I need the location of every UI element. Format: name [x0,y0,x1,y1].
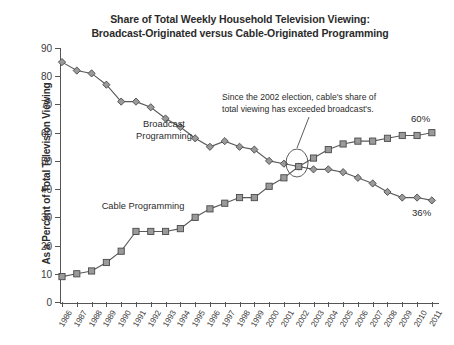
x-axis-tick [417,302,418,307]
data-point-marker [399,132,405,138]
chart-container: Share of Total Weekly Household Televisi… [0,0,454,345]
cable-series-label: Cable Programming [88,200,198,212]
broadcast-series-label-line-2: Programming [136,131,192,141]
data-point-marker [413,194,420,201]
x-axis-tick [432,302,433,307]
data-point-marker [369,180,376,187]
data-point-marker [236,194,242,200]
y-axis-tick [55,104,60,105]
data-point-marker [118,248,124,254]
y-axis-tick-label: 30 [41,212,52,223]
x-axis-tick-label: 2009 [398,309,415,329]
x-axis-tick-label: 1986 [57,309,74,329]
broadcast-end-value-label: 36% [412,207,431,218]
x-axis-tick [402,302,403,307]
x-axis-tick-label: 1987 [72,309,89,329]
y-axis-tick-label: 10 [41,268,52,279]
data-point-marker [339,169,346,176]
x-axis-tick-label: 1994 [176,309,193,329]
y-axis-tick-label: 90 [41,43,52,54]
y-axis-tick-label: 70 [41,99,52,110]
x-axis-tick [195,302,196,307]
series-line-diamond [62,62,432,200]
x-axis-tick-label: 1999 [250,309,267,329]
chart-title: Share of Total Weekly Household Televisi… [40,12,440,40]
x-axis-tick [284,302,285,307]
x-axis-tick-label: 1992 [146,309,163,329]
data-point-marker [192,214,198,220]
x-axis-tick [225,302,226,307]
data-point-marker [162,228,168,234]
chart-title-line-2: Broadcast-Originated versus Cable-Origin… [40,26,440,40]
x-axis-tick-label: 1997 [220,309,237,329]
data-point-marker [251,194,257,200]
data-point-marker [354,174,361,181]
data-point-marker [340,141,346,147]
x-axis-tick [136,302,137,307]
data-point-marker [310,166,317,173]
y-axis-tick [55,302,60,303]
crossover-annotation-line-1: Since the 2002 election, cable's share o… [222,92,408,104]
cable-end-value-label: 60% [411,113,430,124]
chart-title-line-1: Share of Total Weekly Household Televisi… [40,12,440,26]
x-axis-tick [92,302,93,307]
broadcast-series-label-line-1: Broadcast [143,119,185,129]
x-axis-tick-label: 2000 [264,309,281,329]
data-point-marker [428,197,435,204]
data-point-marker [206,143,213,150]
data-point-marker [399,194,406,201]
data-point-marker [132,98,139,105]
y-axis-tick-label: 20 [41,240,52,251]
data-point-marker [133,228,139,234]
y-axis-tick [55,189,60,190]
data-point-marker [325,147,331,153]
data-point-marker [103,259,109,265]
y-axis-tick-label: 50 [41,155,52,166]
x-axis-tick-label: 2007 [368,309,385,329]
x-axis-tick [151,302,152,307]
x-axis-tick [121,302,122,307]
data-point-marker [88,268,94,274]
data-point-marker [281,175,287,181]
x-axis-tick-label: 2011 [427,309,443,328]
y-axis-tick-label: 0 [46,297,52,308]
x-axis-tick-label: 2010 [412,309,429,329]
data-point-marker [73,67,80,74]
data-point-marker [384,135,390,141]
y-axis-tick [55,246,60,247]
x-axis-tick [328,302,329,307]
x-axis-tick-label: 2006 [353,309,370,329]
crossover-annotation-line-2: total viewing has exceeded broadcast's. [222,104,408,116]
broadcast-series-label: Broadcast Programming [124,118,204,142]
y-axis-tick [55,161,60,162]
x-axis-tick [77,302,78,307]
data-point-marker [74,271,80,277]
y-axis-tick [55,48,60,49]
data-point-marker [148,228,154,234]
x-axis-tick-label: 2001 [279,309,296,329]
data-point-marker [177,226,183,232]
y-axis-tick [55,274,60,275]
x-axis-tick [314,302,315,307]
x-axis-tick [106,302,107,307]
y-axis-tick-label: 40 [41,184,52,195]
crossover-annotation: Since the 2002 election, cable's share o… [222,92,408,115]
data-point-marker [310,155,316,161]
x-axis-tick [180,302,181,307]
data-point-marker [384,188,391,195]
x-axis-tick-label: 1993 [161,309,178,329]
x-axis-tick-label: 2003 [309,309,326,329]
data-point-marker [429,130,435,136]
x-axis-tick [62,302,63,307]
x-axis-line [60,303,439,304]
x-axis-tick-label: 2008 [383,309,400,329]
data-point-marker [221,138,228,145]
x-axis-tick-label: 1988 [87,309,104,329]
y-axis-tick [55,133,60,134]
data-point-marker [280,160,287,167]
x-axis-tick-label: 2005 [338,309,355,329]
y-axis-title: As a Percent of Total Television Viewing [41,49,52,299]
data-point-marker [207,206,213,212]
y-axis-tick-label: 80 [41,71,52,82]
data-point-marker [222,200,228,206]
